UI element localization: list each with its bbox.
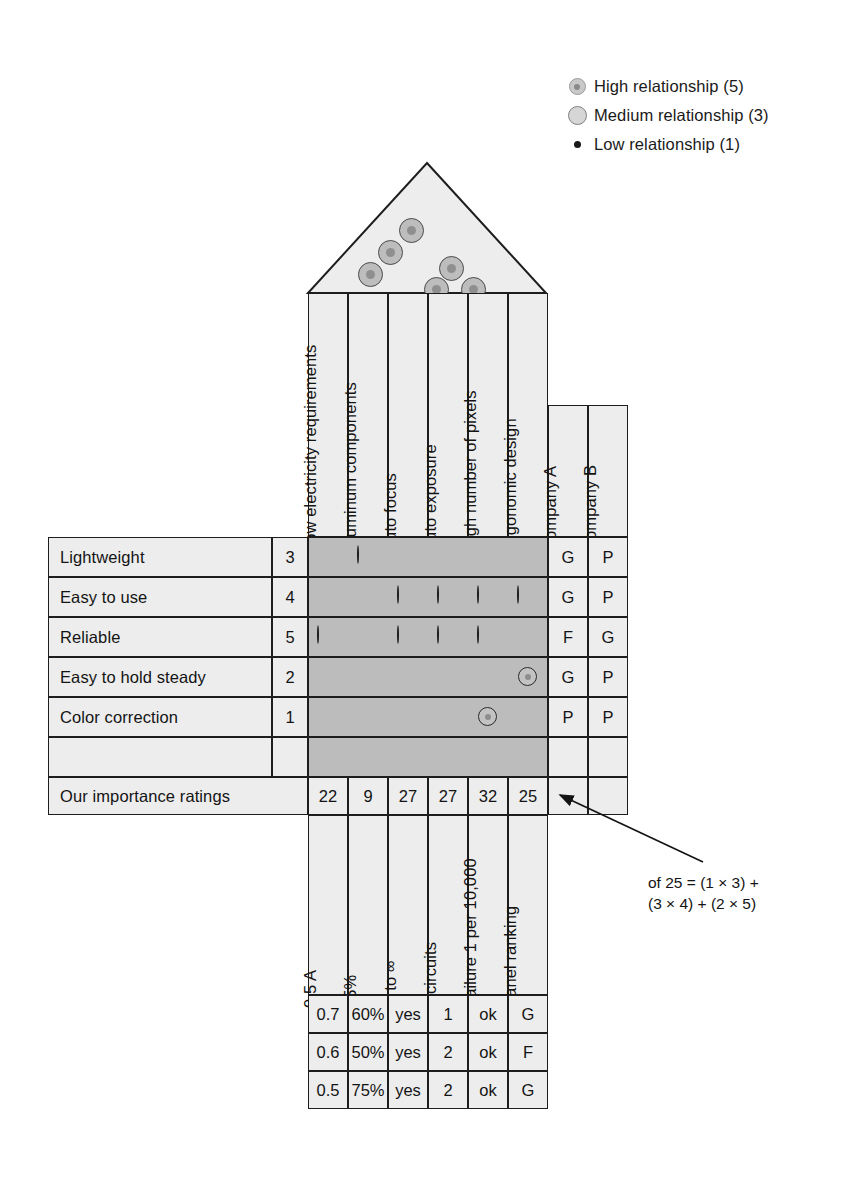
tech-col-label-5: Ergonomic design <box>501 418 520 552</box>
roof-correlation-high-1 <box>358 262 383 287</box>
matrix-row-3 <box>308 657 548 697</box>
cust-req-label-1: Easy to use <box>60 588 147 607</box>
cust-req-importance-2: 5 <box>272 617 308 657</box>
benchmark-value-r1c1: 50% <box>348 1033 388 1071</box>
tech-col-label-4: High number of pixels <box>461 390 480 552</box>
high-relationship-icon <box>560 78 594 95</box>
cust-req-importance-4: 1 <box>272 697 308 737</box>
cust-req-label-cell-5 <box>48 737 272 777</box>
relationship-r2c3-medium <box>437 626 439 644</box>
company-b-rating-4: P <box>588 697 628 737</box>
benchmark-value-r1c2: yes <box>388 1033 428 1071</box>
roof-correlation-high-3 <box>399 218 424 243</box>
importance-row-company-a-cell <box>548 777 588 815</box>
matrix-row-4 <box>308 697 548 737</box>
cust-req-importance-3: 2 <box>272 657 308 697</box>
company-a-rating-4: P <box>548 697 588 737</box>
company-a-rating-3: G <box>548 657 588 697</box>
importance-rating-0: 22 <box>308 777 348 815</box>
matrix-row-0 <box>308 537 548 577</box>
relationship-r3c5-high <box>518 667 537 686</box>
relationship-r2c2-medium <box>397 626 399 644</box>
relationship-r2c4-medium <box>477 626 479 644</box>
relationship-r1c4-medium <box>477 586 479 604</box>
benchmark-value-r1c0: 0.6 <box>308 1033 348 1071</box>
cust-req-label-0: Lightweight <box>60 548 145 567</box>
benchmark-value-r1c3: 2 <box>428 1033 468 1071</box>
relationship-r1c5-medium <box>517 586 519 604</box>
company-b-rating-1: P <box>588 577 628 617</box>
importance-row-company-b-cell <box>588 777 628 815</box>
relationship-r1c3-medium <box>437 586 439 604</box>
company-a-rating-0: G <box>548 537 588 577</box>
relationship-r2c0-medium <box>317 626 319 644</box>
importance-rating-5: 25 <box>508 777 548 815</box>
relationship-r4c4-high <box>478 707 497 726</box>
benchmark-value-r2c5: G <box>508 1071 548 1109</box>
legend-label-low: Low relationship (1) <box>594 135 740 154</box>
company-b-rating-0: P <box>588 537 628 577</box>
company-b-rating-2: G <box>588 617 628 657</box>
benchmark-value-r2c0: 0.5 <box>308 1071 348 1109</box>
importance-rating-3: 27 <box>428 777 468 815</box>
tech-col-label-3: Auto exposure <box>421 444 440 552</box>
cust-req-label-3: Easy to hold steady <box>60 668 206 687</box>
roof-correlation-high-4 <box>439 256 464 281</box>
cust-req-label-4: Color correction <box>60 708 178 727</box>
benchmark-value-r0c0: 0.7 <box>308 995 348 1033</box>
importance-rating-2: 27 <box>388 777 428 815</box>
target-spec-label-5: Panel ranking <box>501 906 520 1008</box>
legend-label-medium: Medium relationship (3) <box>594 106 769 125</box>
benchmark-value-r2c1: 75% <box>348 1071 388 1109</box>
annotation-text: of 25 = (1 × 3) + (3 × 4) + (2 × 5) <box>648 872 759 914</box>
legend-item-low: Low relationship (1) <box>560 130 850 159</box>
benchmark-value-r0c2: yes <box>388 995 428 1033</box>
legend-item-medium: Medium relationship (3) <box>560 101 850 130</box>
cust-req-importance-1: 4 <box>272 577 308 617</box>
cust-req-importance-0: 3 <box>272 537 308 577</box>
tech-col-label-0: Low electricity requirements <box>301 345 320 552</box>
matrix-row-1 <box>308 577 548 617</box>
company-b-rating-3: P <box>588 657 628 697</box>
relationship-r0c1-medium <box>357 546 359 564</box>
legend: High relationship (5) Medium relationshi… <box>560 72 850 159</box>
benchmark-value-r2c4: ok <box>468 1071 508 1109</box>
benchmark-value-r0c5: G <box>508 995 548 1033</box>
benchmark-value-r1c5: F <box>508 1033 548 1071</box>
tech-col-label-1: Aluminum components <box>341 382 360 552</box>
importance-row-label: Our importance ratings <box>60 787 230 806</box>
target-spec-cell-0 <box>308 815 348 995</box>
benchmark-value-r2c3: 2 <box>428 1071 468 1109</box>
benchmark-value-r0c4: ok <box>468 995 508 1033</box>
cust-req-label-2: Reliable <box>60 628 120 647</box>
company-a-cell-5 <box>548 737 588 777</box>
company-a-rating-2: F <box>548 617 588 657</box>
matrix-row-2 <box>308 617 548 657</box>
matrix-row-5 <box>308 737 548 777</box>
company-b-cell-5 <box>588 737 628 777</box>
roof-correlation-high-2 <box>378 240 403 265</box>
target-spec-label-4: Failure 1 per 10,000 <box>461 858 480 1008</box>
legend-label-high: High relationship (5) <box>594 77 744 96</box>
importance-rating-1: 9 <box>348 777 388 815</box>
company-a-rating-1: G <box>548 577 588 617</box>
benchmark-value-r0c3: 1 <box>428 995 468 1033</box>
low-relationship-icon <box>560 141 594 148</box>
legend-item-high: High relationship (5) <box>560 72 850 101</box>
benchmark-value-r2c2: yes <box>388 1071 428 1109</box>
house-of-quality-diagram: High relationship (5) Medium relationshi… <box>0 0 853 1196</box>
cust-req-importance-cell-5 <box>272 737 308 777</box>
benchmark-value-r1c4: ok <box>468 1033 508 1071</box>
relationship-r1c2-medium <box>397 586 399 604</box>
importance-rating-4: 32 <box>468 777 508 815</box>
benchmark-value-r0c1: 60% <box>348 995 388 1033</box>
medium-relationship-icon <box>560 106 594 125</box>
